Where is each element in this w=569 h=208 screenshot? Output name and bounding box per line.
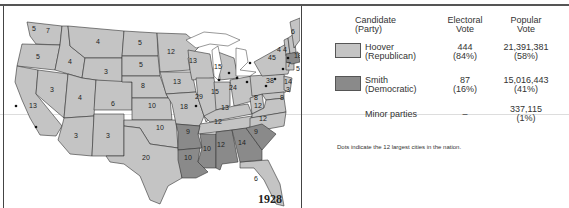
svg-text:12: 12	[217, 141, 225, 148]
svg-text:14: 14	[284, 78, 292, 85]
header-electoral: Electoral Vote	[440, 16, 490, 34]
svg-text:9: 9	[186, 128, 190, 135]
svg-text:15: 15	[214, 63, 222, 70]
us-electoral-map: 57 54 413 34 36 33 55 810 1020 1213 189 …	[0, 0, 300, 208]
svg-text:4: 4	[283, 46, 287, 53]
smith-ev-pct: (16%)	[440, 85, 490, 94]
hoover-pv-pct: (58%)	[496, 52, 556, 61]
minor-popular: 337,115 (1%)	[496, 105, 556, 123]
header-candidate-line2: (Party)	[355, 25, 396, 34]
minor-pv-pct: (1%)	[496, 114, 556, 123]
svg-text:10: 10	[203, 145, 211, 152]
smith-popular: 15,016,443 (41%)	[496, 76, 556, 94]
svg-text:3: 3	[104, 68, 108, 75]
hoover-party: (Republican)	[365, 52, 416, 61]
hoover-ev-pct: (84%)	[440, 52, 490, 61]
svg-text:6: 6	[291, 28, 295, 35]
svg-text:4: 4	[78, 94, 82, 101]
svg-text:10: 10	[148, 102, 156, 109]
svg-text:9: 9	[254, 128, 258, 135]
lake-huron-erie	[236, 48, 256, 76]
election-year: 1928	[258, 192, 282, 207]
cities-note: Dots indicate the 12 largest cities in t…	[337, 144, 461, 150]
svg-text:14: 14	[238, 139, 246, 146]
svg-text:10: 10	[156, 124, 164, 131]
smith-label: Smith (Democratic)	[365, 76, 417, 94]
svg-text:8: 8	[254, 94, 258, 101]
republican-swatch	[335, 43, 361, 58]
minor-ev: –	[440, 110, 490, 119]
header-electoral-line2: Vote	[440, 25, 490, 34]
svg-text:13: 13	[173, 78, 181, 85]
svg-text:29: 29	[195, 93, 203, 100]
svg-text:8: 8	[280, 94, 284, 101]
smith-pv-pct: (41%)	[496, 85, 556, 94]
svg-text:12: 12	[214, 118, 222, 125]
svg-text:5: 5	[36, 53, 40, 60]
democratic-swatch	[335, 76, 361, 91]
svg-text:5: 5	[139, 61, 143, 68]
svg-text:4: 4	[96, 38, 100, 45]
svg-text:4: 4	[68, 58, 72, 65]
svg-text:13: 13	[29, 102, 37, 109]
svg-text:6: 6	[254, 175, 258, 182]
svg-text:20: 20	[142, 154, 150, 161]
svg-text:24: 24	[229, 84, 237, 91]
svg-text:7: 7	[287, 61, 291, 68]
hoover-electoral: 444 (84%)	[440, 43, 490, 61]
svg-text:4: 4	[277, 46, 281, 53]
svg-text:18: 18	[180, 103, 188, 110]
state-wi	[188, 50, 214, 80]
svg-text:3: 3	[286, 86, 290, 93]
svg-text:12: 12	[254, 102, 262, 109]
svg-text:5: 5	[138, 39, 142, 46]
svg-text:15: 15	[211, 88, 219, 95]
svg-text:6: 6	[111, 100, 115, 107]
lake-superior	[186, 32, 240, 48]
header-popular-line2: Vote	[496, 25, 556, 34]
svg-text:3: 3	[106, 132, 110, 139]
hoover-label: Hoover (Republican)	[365, 43, 416, 61]
hoover-popular: 21,391,381 (58%)	[496, 43, 556, 61]
svg-text:13: 13	[189, 57, 197, 64]
svg-text:5: 5	[32, 25, 36, 32]
svg-text:13: 13	[221, 104, 229, 111]
svg-text:12: 12	[259, 115, 267, 122]
header-candidate: Candidate (Party)	[355, 16, 396, 34]
smith-party: (Democratic)	[365, 85, 417, 94]
svg-text:45: 45	[268, 54, 276, 61]
header-popular: Popular Vote	[496, 16, 556, 34]
smith-electoral: 87 (16%)	[440, 76, 490, 94]
svg-text:8: 8	[141, 82, 145, 89]
svg-text:38: 38	[266, 77, 274, 84]
svg-text:10: 10	[184, 154, 192, 161]
svg-text:3: 3	[74, 132, 78, 139]
svg-text:12: 12	[167, 48, 175, 55]
svg-text:3: 3	[50, 86, 54, 93]
minor-parties-label: Minor parties	[365, 110, 417, 119]
svg-text:7: 7	[46, 27, 50, 34]
